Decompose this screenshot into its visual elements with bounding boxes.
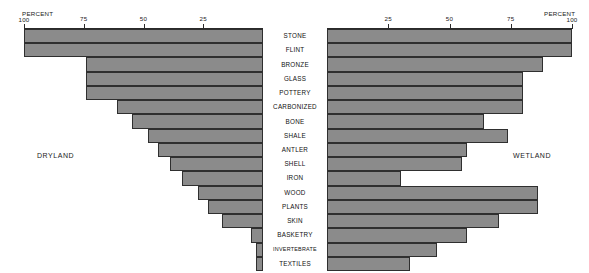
bar-row (327, 57, 572, 71)
bar-bone (327, 114, 484, 128)
bar-row (327, 171, 572, 185)
bar-iron (182, 171, 263, 185)
bar-row (24, 214, 263, 228)
bar-row (24, 100, 263, 114)
bar-shale (148, 129, 263, 143)
bar-row (24, 129, 263, 143)
category-label-stone: STONE (263, 33, 327, 39)
bar-row (24, 157, 263, 171)
category-label-carbonized: CARBONIZED (263, 104, 327, 110)
bar-iron (327, 171, 401, 185)
category-label-bone: BONE (263, 119, 327, 125)
bar-bronze (86, 57, 263, 71)
bar-textiles (256, 257, 263, 271)
category-label-plants: PLANTS (263, 204, 327, 210)
bar-bone (132, 114, 263, 128)
bar-row (327, 157, 572, 171)
bar-bronze (327, 57, 543, 71)
bar-row (327, 72, 572, 86)
category-label-skin: SKIN (263, 218, 327, 224)
category-label-iron: IRON (263, 175, 327, 181)
bar-row (24, 114, 263, 128)
bar-row (327, 129, 572, 143)
axis-tick-100: 100 (19, 16, 30, 23)
bar-row (327, 29, 572, 43)
bar-row (327, 257, 572, 271)
bar-invertebrate (327, 243, 437, 257)
bar-wood (327, 186, 538, 200)
bar-basketry (251, 228, 263, 242)
axis-tickmark-100 (572, 24, 573, 29)
category-label-invertebrate: INVERTEBRATE (263, 247, 327, 252)
bar-row (327, 100, 572, 114)
bar-flint (24, 43, 263, 57)
bar-row (24, 57, 263, 71)
bar-pottery (86, 86, 263, 100)
bar-row (327, 86, 572, 100)
bar-row (24, 43, 263, 57)
bar-invertebrate (256, 243, 263, 257)
bar-row (24, 257, 263, 271)
category-label-wood: WOOD (263, 190, 327, 196)
bar-stone (327, 29, 572, 43)
bar-row (327, 214, 572, 228)
bar-skin (222, 214, 263, 228)
category-label-shell: SHELL (263, 161, 327, 167)
pyramid-chart: PERCENT 100755025 PERCENT 255075100 STON… (0, 0, 589, 273)
bar-row (24, 228, 263, 242)
bar-row (327, 243, 572, 257)
bar-textiles (327, 257, 410, 271)
axis-tick-75: 75 (80, 15, 87, 22)
bar-pottery (327, 86, 523, 100)
bar-antler (327, 143, 467, 157)
axis-tick-50: 50 (446, 15, 453, 22)
dryland-label: DRYLAND (37, 152, 74, 159)
bar-row (24, 200, 263, 214)
bar-shell (170, 157, 263, 171)
axis-tick-25: 25 (200, 15, 207, 22)
bar-carbonized (327, 100, 523, 114)
bar-row (24, 86, 263, 100)
axis-tick-50: 50 (140, 15, 147, 22)
bar-row (327, 200, 572, 214)
bar-row (24, 72, 263, 86)
bar-skin (327, 214, 499, 228)
bar-row (327, 43, 572, 57)
bar-row (327, 186, 572, 200)
bar-row (24, 29, 263, 43)
category-label-flint: FLINT (263, 47, 327, 53)
bar-plants (208, 200, 263, 214)
dryland-bars-panel (24, 29, 263, 271)
bar-plants (327, 200, 538, 214)
bar-row (24, 171, 263, 185)
bar-shale (327, 129, 508, 143)
bar-glass (86, 72, 263, 86)
category-label-shale: SHALE (263, 133, 327, 139)
category-label-basketry: BASKETRY (263, 232, 327, 238)
bar-shell (327, 157, 462, 171)
bar-row (327, 114, 572, 128)
bar-carbonized (117, 100, 263, 114)
bar-row (24, 186, 263, 200)
axis-tick-25: 25 (385, 15, 392, 22)
bar-row (327, 228, 572, 242)
category-label-glass: GLASS (263, 76, 327, 82)
bar-stone (24, 29, 263, 43)
bar-row (24, 243, 263, 257)
axis-tick-75: 75 (507, 15, 514, 22)
bar-basketry (327, 228, 467, 242)
axis-tick-100: 100 (567, 16, 578, 23)
wetland-label: WETLAND (513, 152, 551, 159)
category-label-bronze: BRONZE (263, 62, 327, 68)
wetland-bars-panel (327, 29, 572, 271)
category-label-textiles: TEXTILES (263, 261, 327, 267)
category-label-pottery: POTTERY (263, 90, 327, 96)
bar-antler (158, 143, 263, 157)
category-label-antler: ANTLER (263, 147, 327, 153)
bar-wood (198, 186, 263, 200)
bar-glass (327, 72, 523, 86)
bar-flint (327, 43, 572, 57)
